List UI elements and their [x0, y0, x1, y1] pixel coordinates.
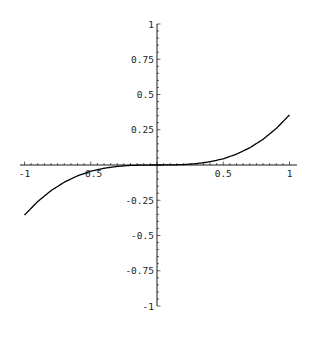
y-tick-label: 0.25: [131, 124, 154, 135]
x-tick-label: -1: [19, 168, 31, 179]
y-tick-label: 0.75: [131, 54, 154, 65]
y-tick-label: -0.75: [125, 265, 154, 276]
y-tick-label: 0.5: [137, 89, 154, 100]
x-tick-label: 1: [287, 168, 293, 179]
y-tick-label: -1: [143, 301, 155, 312]
y-tick-label: -0.5: [131, 230, 154, 241]
y-tick-label: -0.25: [125, 195, 154, 206]
y-tick-label: 1: [148, 19, 154, 30]
x-tick-label: 0.5: [215, 168, 232, 179]
chart: -1-0.50.5110.750.50.25-0.25-0.5-0.75-1: [0, 0, 309, 339]
